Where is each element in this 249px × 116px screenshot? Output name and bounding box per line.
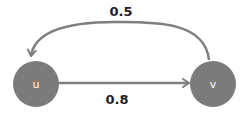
node-v-label: v bbox=[210, 78, 217, 91]
graph-diagram: u v 0.5 0.8 bbox=[0, 0, 249, 116]
edge-v-to-u-weight: 0.5 bbox=[109, 4, 132, 19]
node-u-label: u bbox=[33, 78, 40, 91]
node-u: u bbox=[13, 61, 59, 107]
edge-u-to-v-weight: 0.8 bbox=[105, 92, 128, 107]
edge-v-to-u bbox=[31, 22, 209, 60]
node-v: v bbox=[190, 61, 236, 107]
